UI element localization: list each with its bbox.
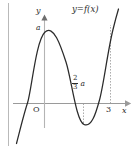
- curve-path: [17, 9, 119, 144]
- curve-equation-label: y=f(x): [72, 5, 99, 14]
- fraction-denominator: 3: [72, 84, 78, 91]
- fraction-annotation: 2 3 a: [72, 75, 85, 92]
- fraction-numerator: 2: [72, 75, 78, 82]
- x-axis-label: x: [122, 107, 127, 115]
- origin-label: O: [33, 106, 40, 114]
- y-axis-label: y: [36, 7, 41, 15]
- x-axis: [13, 100, 131, 107]
- x-tick-label-three: 3: [106, 106, 111, 114]
- figure-container: y x O a 3 y=f(x) 2 3 a: [0, 0, 132, 150]
- fraction-two-thirds: 2 3: [72, 75, 78, 92]
- fraction-coefficient: a: [80, 80, 84, 88]
- peak-value-label: a: [36, 24, 40, 32]
- cubic-graph-plot: [0, 0, 132, 150]
